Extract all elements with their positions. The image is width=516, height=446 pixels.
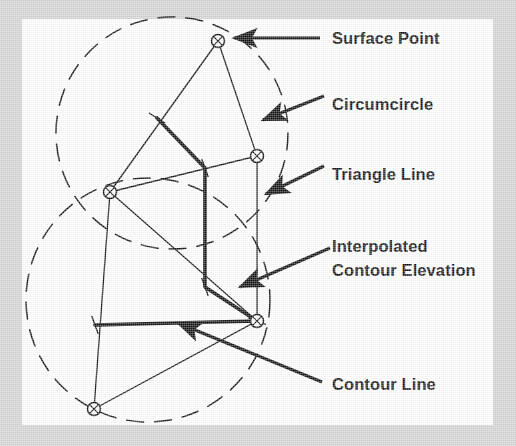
contour-line-label-line-0: Contour Line bbox=[332, 375, 436, 393]
interpolated-contour-elevation-label-line-0: Interpolated bbox=[332, 237, 428, 255]
triangle-line-label: Triangle Line bbox=[332, 165, 435, 183]
circumcircle-label-line-0: Circumcircle bbox=[332, 95, 433, 113]
surface-point-vertex-bottom bbox=[88, 403, 101, 416]
circumcircle-label: Circumcircle bbox=[332, 95, 433, 113]
surface-point-label: Surface Point bbox=[332, 29, 440, 47]
triangle-line-label-line-0: Triangle Line bbox=[332, 165, 435, 183]
figure-root: Surface PointCircumcircleTriangle LineIn… bbox=[0, 0, 516, 446]
contour-line-label: Contour Line bbox=[332, 375, 436, 393]
surface-point-vertex-lower-right bbox=[251, 315, 264, 328]
surface-point-label-line-0: Surface Point bbox=[332, 29, 440, 47]
surface-point-vertex-left bbox=[104, 186, 117, 199]
diagram-canvas: Surface PointCircumcircleTriangle LineIn… bbox=[0, 0, 516, 446]
interpolated-contour-elevation-label-line-1: Contour Elevation bbox=[332, 261, 476, 279]
surface-point-vertex-right bbox=[251, 150, 264, 163]
surface-point-vertex-top bbox=[212, 35, 225, 48]
